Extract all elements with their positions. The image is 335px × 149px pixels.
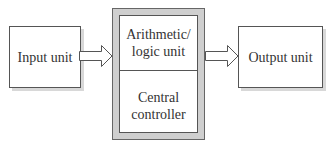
alu-label-line1: Arithmetic/ [126,26,191,43]
central-controller: Central controller [120,70,197,133]
controller-label-line1: Central [131,89,185,106]
output-unit-box: Output unit [238,26,323,88]
controller-label-line2: controller [131,106,185,123]
cpu-inner-frame: Arithmetic/ logic unit Central controlle… [119,15,198,133]
central-processing-unit: Arithmetic/ logic unit Central controlle… [112,8,205,140]
arithmetic-logic-unit: Arithmetic/ logic unit [120,16,197,70]
alu-label-line2: logic unit [126,43,191,60]
input-unit-label: Input unit [18,49,73,66]
arrow-cpu-to-output [205,45,239,67]
output-unit-label: Output unit [248,49,312,66]
input-unit-box: Input unit [9,26,81,88]
arrow-input-to-cpu [79,45,113,67]
